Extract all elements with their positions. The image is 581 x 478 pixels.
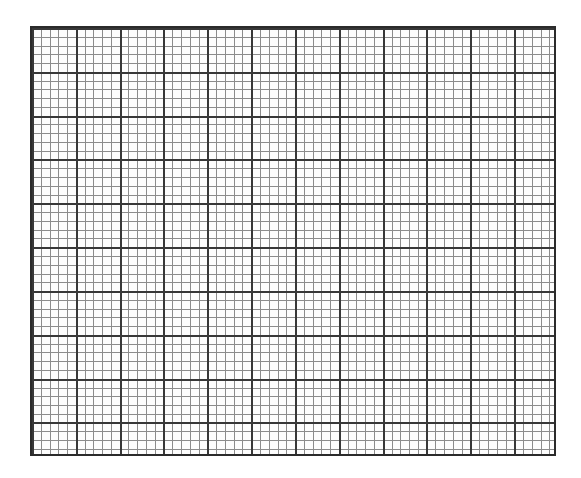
graph-paper-sheet [30,26,556,456]
graph-paper-grid [32,28,554,454]
page-canvas [0,0,581,478]
